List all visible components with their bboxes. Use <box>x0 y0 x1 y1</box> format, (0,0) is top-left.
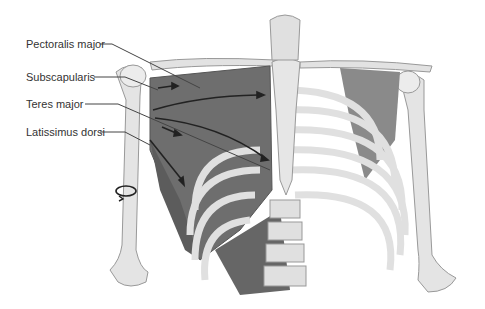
label-teres-major: Teres major <box>26 98 83 110</box>
label-latissimus-dorsi: Latissimus dorsi <box>26 126 105 138</box>
label-pectoralis-major: Pectoralis major <box>26 38 105 50</box>
left-humerus <box>110 65 148 286</box>
right-humerus <box>396 71 456 292</box>
label-subscapularis: Subscapularis <box>26 71 95 83</box>
